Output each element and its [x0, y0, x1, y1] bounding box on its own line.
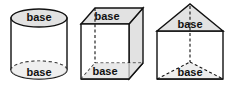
cylinder-shape: base base	[11, 9, 67, 79]
solid-figures-diagram: base base base base	[0, 0, 228, 88]
figures-svg: base base base base	[0, 0, 228, 88]
rectangular-prism-shape: base base	[81, 8, 143, 79]
prism-bottom-base-label: base	[92, 65, 117, 77]
triangular-prism-shape: base base	[157, 4, 223, 79]
triprism-bottom-base-label: base	[177, 66, 202, 78]
cylinder-top-base-label: base	[26, 11, 51, 23]
triprism-top-base-label: base	[177, 18, 202, 30]
prism-top-base-label: base	[94, 10, 119, 22]
cylinder-bottom-base-label: base	[26, 66, 51, 78]
